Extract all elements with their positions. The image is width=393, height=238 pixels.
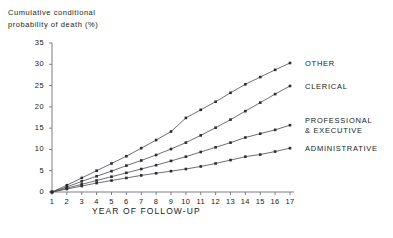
data-point-marker <box>214 162 217 165</box>
data-point-marker <box>244 83 247 86</box>
x-tick-label: 3 <box>75 197 89 206</box>
data-point-marker <box>80 180 83 183</box>
x-tick-label: 5 <box>105 197 119 206</box>
data-point-marker <box>110 175 113 178</box>
data-point-marker <box>155 164 158 167</box>
data-point-marker <box>110 170 113 173</box>
data-point-marker <box>51 191 54 194</box>
data-point-marker <box>274 93 277 96</box>
data-point-marker <box>140 174 143 177</box>
data-point-marker <box>140 147 143 150</box>
data-point-marker <box>229 159 232 162</box>
data-point-marker <box>199 151 202 154</box>
y-tick-label: 15 <box>28 123 44 132</box>
data-point-marker <box>289 124 292 127</box>
data-point-marker <box>185 141 188 144</box>
y-tick-label: 10 <box>28 144 44 153</box>
data-point-marker <box>66 188 69 191</box>
data-point-marker <box>214 100 217 103</box>
data-point-marker <box>289 85 292 88</box>
data-point-marker <box>155 172 158 175</box>
data-point-marker <box>214 126 217 129</box>
data-point-marker <box>125 164 128 167</box>
data-point-marker <box>244 136 247 139</box>
data-point-marker <box>185 155 188 158</box>
data-point-marker <box>140 168 143 171</box>
data-point-marker <box>80 177 83 180</box>
y-tick-label: 25 <box>28 81 44 90</box>
data-point-marker <box>259 76 262 79</box>
data-point-marker <box>170 148 173 151</box>
data-point-marker <box>274 129 277 132</box>
data-point-marker <box>110 162 113 165</box>
data-point-marker <box>185 117 188 120</box>
data-point-marker <box>289 147 292 150</box>
data-point-marker <box>140 159 143 162</box>
data-point-marker <box>170 160 173 163</box>
data-point-marker <box>274 69 277 72</box>
legend-label-other: OTHER <box>305 59 335 69</box>
y-tick-label: 30 <box>28 59 44 68</box>
x-tick-label: 4 <box>90 197 104 206</box>
data-point-marker <box>259 153 262 156</box>
data-point-marker <box>199 109 202 112</box>
x-tick-label: 12 <box>209 197 223 206</box>
x-tick-label: 9 <box>164 197 178 206</box>
data-point-marker <box>95 175 98 178</box>
data-point-marker <box>229 92 232 95</box>
data-point-marker <box>170 170 173 173</box>
data-point-marker <box>199 134 202 137</box>
data-point-marker <box>244 110 247 113</box>
x-tick-label: 17 <box>283 197 297 206</box>
data-point-marker <box>110 179 113 182</box>
y-tick-label: 20 <box>28 102 44 111</box>
data-point-marker <box>214 146 217 149</box>
x-tick-label: 16 <box>268 197 282 206</box>
y-tick-label: 0 <box>28 187 44 196</box>
data-point-marker <box>125 177 128 180</box>
x-tick-label: 6 <box>119 197 133 206</box>
data-point-marker <box>244 155 247 158</box>
data-point-marker <box>95 179 98 182</box>
x-tick-label: 8 <box>149 197 163 206</box>
series-line <box>52 63 290 192</box>
legend-label-professional: PROFESSIONAL & EXECUTIVE <box>305 116 372 136</box>
data-point-marker <box>229 118 232 121</box>
data-point-marker <box>185 168 188 171</box>
data-point-marker <box>125 155 128 158</box>
x-tick-label: 11 <box>194 197 208 206</box>
x-tick-label: 14 <box>238 197 252 206</box>
data-point-marker <box>170 130 173 133</box>
data-point-marker <box>95 169 98 172</box>
x-tick-label: 15 <box>253 197 267 206</box>
data-point-marker <box>229 141 232 144</box>
data-point-marker <box>274 150 277 153</box>
chart-figure: Cumulative conditionalprobability of dea… <box>0 0 393 238</box>
series-line <box>52 86 290 192</box>
legend-label-clerical: CLERICAL <box>305 82 348 92</box>
x-tick-label: 2 <box>60 197 74 206</box>
data-point-marker <box>125 172 128 175</box>
x-tick-label: 10 <box>179 197 193 206</box>
y-tick-label: 5 <box>28 166 44 175</box>
y-tick-label: 35 <box>28 38 44 47</box>
x-tick-label: 1 <box>45 197 59 206</box>
data-point-marker <box>259 132 262 135</box>
x-tick-label: 13 <box>224 197 238 206</box>
data-point-marker <box>259 101 262 104</box>
data-point-marker <box>155 139 158 142</box>
data-point-marker <box>95 182 98 185</box>
legend-label-administrative: ADMINISTRATIVE <box>305 144 378 154</box>
data-point-marker <box>289 62 292 65</box>
data-point-marker <box>155 154 158 157</box>
data-point-marker <box>80 185 83 188</box>
data-point-marker <box>199 165 202 168</box>
x-tick-label: 7 <box>134 197 148 206</box>
series-line <box>52 125 290 192</box>
